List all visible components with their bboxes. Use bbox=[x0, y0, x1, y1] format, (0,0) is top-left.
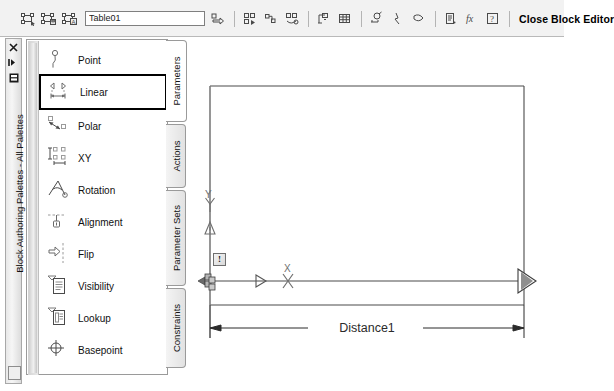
toolbar-separator bbox=[509, 11, 510, 27]
flip-parameter-icon bbox=[44, 239, 74, 269]
save-block-definition-icon[interactable] bbox=[39, 9, 58, 28]
action-icon[interactable] bbox=[282, 9, 301, 28]
close-block-editor-button[interactable]: Close Block Editor bbox=[519, 13, 614, 25]
palette-item-flip[interactable]: Flip bbox=[39, 236, 167, 272]
palette-item-visibility[interactable]: Visibility bbox=[39, 268, 167, 304]
parameter-manager-icon[interactable] bbox=[367, 9, 386, 28]
palette-item-label: Visibility bbox=[78, 281, 114, 292]
alignment-parameter-icon bbox=[44, 207, 74, 237]
palette-item-polar[interactable]: Polar bbox=[39, 108, 167, 144]
visibility-states-icon[interactable] bbox=[441, 9, 460, 28]
close-icon[interactable] bbox=[7, 41, 20, 54]
distance-dimension-label: Distance1 bbox=[339, 321, 395, 335]
block-name-input[interactable] bbox=[85, 11, 205, 26]
y-axis-label: Y bbox=[205, 189, 212, 200]
parameters-list: Point Linear bbox=[39, 40, 168, 374]
table-rectangle bbox=[210, 86, 524, 305]
palette-item-xy[interactable]: XY bbox=[39, 140, 167, 176]
basepoint-parameter-icon bbox=[44, 335, 74, 365]
palette-anchor-strip: Block Authoring Palettes - All Palettes bbox=[5, 38, 22, 384]
svg-text:?: ? bbox=[490, 14, 494, 24]
construction-geometry-icon[interactable] bbox=[409, 9, 428, 28]
palette-item-label: Flip bbox=[78, 249, 94, 260]
block-geometry: Y X bbox=[188, 38, 564, 391]
palette-item-lookup[interactable]: Lookup bbox=[39, 300, 167, 336]
block-table-icon[interactable] bbox=[335, 9, 354, 28]
tab-label: Constraints bbox=[170, 304, 181, 352]
save-block-as-icon[interactable]: A bbox=[60, 9, 79, 28]
palette-item-label: Alignment bbox=[78, 217, 122, 228]
xy-parameter-icon bbox=[44, 143, 74, 173]
block-properties-table-icon[interactable]: fx bbox=[462, 9, 481, 28]
auto-hide-icon[interactable] bbox=[7, 56, 20, 69]
palette-item-label: Rotation bbox=[78, 185, 115, 196]
help-icon[interactable]: ? bbox=[483, 9, 502, 28]
palette-anchor-title: Block Authoring Palettes - All Palettes bbox=[11, 74, 28, 314]
polar-parameter-icon bbox=[44, 111, 74, 141]
block-editor-toolbar: A bbox=[0, 0, 564, 37]
palette-scrollbar-thumb[interactable] bbox=[29, 43, 37, 373]
palette-item-rotation[interactable]: Rotation bbox=[39, 172, 167, 208]
define-attribute-icon[interactable] bbox=[314, 9, 333, 28]
tab-parameters[interactable]: Parameters bbox=[166, 40, 187, 122]
authoring-palettes-icon[interactable] bbox=[240, 9, 259, 28]
visibility-parameter-icon bbox=[44, 271, 74, 301]
origin-grip-cluster[interactable] bbox=[198, 274, 215, 290]
block-authoring-palette: Point Linear bbox=[26, 39, 168, 375]
tab-parameter-sets[interactable]: Parameter Sets bbox=[166, 190, 186, 286]
svg-text:fx: fx bbox=[466, 13, 474, 24]
palette-item-label: XY bbox=[78, 153, 91, 164]
toolbar-button-group: A bbox=[18, 8, 614, 29]
palette-item-label: Lookup bbox=[78, 313, 111, 324]
palette-item-linear[interactable]: Linear bbox=[39, 74, 167, 110]
tab-label: Actions bbox=[170, 140, 181, 171]
palette-item-label: Point bbox=[78, 55, 101, 66]
palette-scrollbar[interactable] bbox=[28, 41, 39, 375]
tab-actions[interactable]: Actions bbox=[166, 124, 186, 188]
alert-glyph: ! bbox=[218, 255, 221, 264]
palette-item-alignment[interactable]: Alignment bbox=[39, 204, 167, 240]
tab-constraints[interactable]: Constraints bbox=[166, 288, 186, 368]
lookup-parameter-icon bbox=[44, 303, 74, 333]
point-parameter-icon bbox=[44, 45, 74, 75]
palette-item-label: Polar bbox=[78, 121, 101, 132]
palette-item-basepoint[interactable]: Basepoint bbox=[39, 332, 167, 368]
x-axis-label: X bbox=[284, 263, 291, 274]
parameter-alert-icon[interactable]: ! bbox=[213, 253, 226, 266]
toolbar-separator bbox=[435, 11, 436, 27]
block-editor-drawing-area[interactable]: Y X bbox=[188, 38, 564, 391]
endpoint-arrow-grip[interactable] bbox=[518, 269, 536, 293]
palette-anchor-footer-icon[interactable] bbox=[8, 366, 21, 380]
svg-text:A: A bbox=[72, 19, 76, 25]
palette-item-label: Linear bbox=[80, 87, 108, 98]
constraint-display-icon[interactable] bbox=[388, 9, 407, 28]
tab-label: Parameters bbox=[171, 56, 182, 105]
test-block-icon[interactable] bbox=[208, 9, 227, 28]
palette-item-label: Basepoint bbox=[78, 345, 122, 356]
toolbar-separator bbox=[234, 11, 235, 27]
toolbar-separator bbox=[308, 11, 309, 27]
rotation-parameter-icon bbox=[44, 175, 74, 205]
tab-label: Parameter Sets bbox=[170, 205, 181, 271]
edit-block-definition-icon[interactable] bbox=[18, 9, 37, 28]
palette-item-point[interactable]: Point bbox=[39, 42, 167, 78]
linear-parameter-icon bbox=[46, 77, 76, 107]
toolbar-separator bbox=[361, 11, 362, 27]
parameter-icon[interactable] bbox=[261, 9, 280, 28]
